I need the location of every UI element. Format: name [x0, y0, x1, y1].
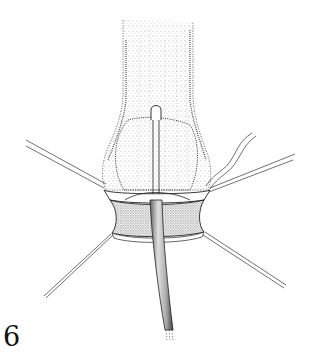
figure-number-label: 6 — [3, 323, 20, 350]
bowel-segment — [102, 20, 210, 190]
surgical-illustration — [0, 0, 315, 361]
